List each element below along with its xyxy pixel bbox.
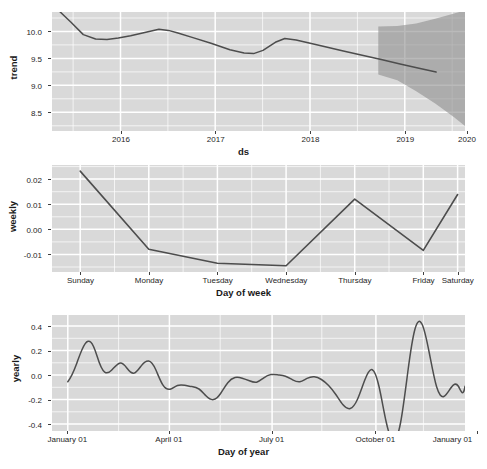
yearly-y-tickmark-2: [48, 375, 51, 376]
yearly-x-tickmark-1: [169, 431, 170, 434]
yearly-y-tickmark-4: [48, 424, 51, 425]
trend-plot-svg: [52, 12, 465, 131]
yearly-y-axis-label: yearly: [10, 334, 21, 404]
prophet-components-figure: trend 10.0 9.5 9.0 8.5: [0, 0, 487, 469]
yearly-x-tick-4: January 01: [418, 435, 487, 444]
yearly-panel: yearly 0.4 0.2 0.0 -0.2 -0.4: [0, 305, 487, 469]
yearly-x-tick-1: April 01: [134, 435, 203, 444]
yearly-y-tick-3: -0.2: [16, 396, 42, 405]
weekly-x-tickmark-3: [286, 272, 287, 275]
weekly-x-tick-tuesday: Tuesday: [186, 276, 249, 285]
trend-x-tick-0: 2016: [96, 135, 146, 144]
weekly-y-tick-0: 0.02: [10, 176, 42, 185]
yearly-y-tick-1: 0.2: [16, 347, 42, 356]
yearly-major-gridlines: [52, 315, 465, 431]
weekly-minor-gridlines: [52, 165, 465, 272]
weekly-x-tick-wednesday: Wednesday: [255, 276, 318, 285]
yearly-plot-area: [52, 315, 465, 431]
trend-y-tickmark-2: [48, 85, 51, 86]
trend-x-tickmark-2: [310, 131, 311, 134]
weekly-x-tick-sunday: Sunday: [49, 276, 112, 285]
weekly-y-tickmark-3: [48, 254, 51, 255]
yearly-x-tick-3: October 01: [341, 435, 410, 444]
yearly-y-tickmark-3: [48, 400, 51, 401]
weekly-x-tickmark-4: [355, 272, 356, 275]
weekly-y-tick-1: 0.01: [10, 201, 42, 210]
trend-x-tickmark-3: [405, 131, 406, 134]
yearly-x-tick-2: July 01: [237, 435, 306, 444]
weekly-x-tickmark-6: [458, 272, 459, 275]
weekly-y-tickmark-0: [48, 179, 51, 180]
trend-x-tick-2: 2018: [286, 135, 336, 144]
weekly-y-tick-3: -0.01: [10, 251, 42, 260]
weekly-major-gridlines: [52, 165, 465, 272]
yearly-y-tick-2: 0.0: [16, 372, 42, 381]
weekly-x-tickmark-2: [217, 272, 218, 275]
weekly-x-tick-thursday: Thursday: [323, 276, 386, 285]
yearly-line: [68, 321, 465, 431]
trend-y-axis-label: trend: [8, 33, 19, 103]
weekly-plot-svg: [52, 165, 465, 272]
yearly-y-tickmark-0: [48, 326, 51, 327]
weekly-y-tick-2: 0.00: [10, 226, 42, 235]
weekly-x-tick-monday: Monday: [118, 276, 181, 285]
yearly-x-axis-label: Day of year: [0, 446, 487, 457]
yearly-x-tick-0: January 01: [33, 435, 102, 444]
weekly-y-axis-label: weekly: [7, 182, 18, 252]
weekly-plot-area: [52, 165, 465, 272]
trend-y-tick-2: 9.0: [14, 82, 42, 91]
weekly-line: [80, 171, 457, 266]
trend-x-tick-1: 2017: [191, 135, 241, 144]
yearly-y-tickmark-1: [48, 351, 51, 352]
yearly-x-tickmark-0: [67, 431, 68, 434]
trend-x-tick-4: 2020: [442, 135, 487, 144]
weekly-x-tick-saturday: Saturday: [426, 276, 487, 285]
yearly-plot-svg: [52, 315, 465, 431]
trend-y-tick-1: 9.5: [14, 55, 42, 64]
weekly-x-tickmark-1: [149, 272, 150, 275]
yearly-x-tickmark-4: [477, 431, 478, 434]
trend-y-tick-0: 10.0: [14, 28, 42, 37]
weekly-y-tickmark-1: [48, 204, 51, 205]
trend-y-tick-3: 8.5: [14, 109, 42, 118]
trend-y-tickmark-1: [48, 58, 51, 59]
trend-y-tickmark-0: [48, 31, 51, 32]
trend-y-tickmark-3: [48, 112, 51, 113]
trend-x-tickmark-1: [215, 131, 216, 134]
weekly-y-tickmark-2: [48, 229, 51, 230]
weekly-panel: weekly 0.02 0.01 0.00 -0.01: [0, 155, 487, 305]
yearly-x-tickmark-2: [272, 431, 273, 434]
trend-x-tickmark-0: [121, 131, 122, 134]
trend-panel: trend 10.0 9.5 9.0 8.5: [0, 0, 487, 155]
yearly-y-tick-0: 0.4: [16, 323, 42, 332]
weekly-x-tickmark-5: [423, 272, 424, 275]
trend-x-tick-3: 2019: [380, 135, 430, 144]
trend-uncertainty-band: [378, 12, 465, 131]
weekly-x-axis-label: Day of week: [0, 287, 487, 298]
yearly-y-tick-4: -0.4: [16, 421, 42, 430]
trend-x-tickmark-4: [467, 131, 468, 134]
yearly-minor-gridlines: [52, 315, 465, 431]
trend-plot-area: [52, 12, 465, 131]
weekly-x-tickmark-0: [80, 272, 81, 275]
yearly-x-tickmark-3: [375, 431, 376, 434]
